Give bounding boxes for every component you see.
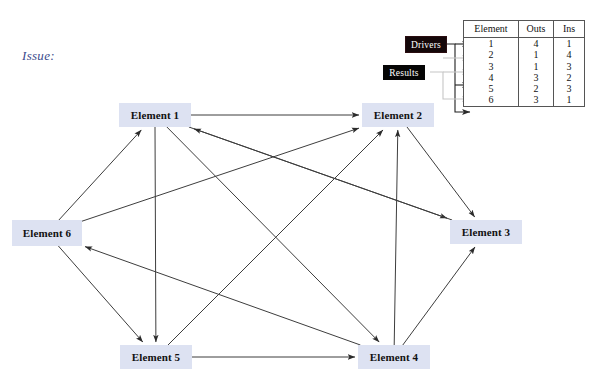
cell-element: 5 [464, 83, 519, 94]
col-header-ins: Ins [554, 21, 585, 38]
table-row: 141 [464, 38, 585, 50]
edge-e6-to-e2 [82, 128, 359, 221]
node-label: Element 6 [23, 227, 71, 239]
edge-e4-to-e2 [394, 130, 398, 345]
cell-element: 1 [464, 38, 519, 50]
cell-element: 3 [464, 61, 519, 72]
table-row: 631 [464, 94, 585, 106]
edge-e3-to-e1 [194, 129, 452, 220]
cell-ins: 1 [554, 38, 585, 50]
edge-e1-to-e4 [167, 127, 379, 342]
drivers-tag: Drivers [405, 36, 447, 53]
cell-element: 6 [464, 94, 519, 106]
node-label: Element 2 [374, 109, 422, 121]
node-e2[interactable]: Element 2 [362, 103, 434, 127]
table-header-row: Element Outs Ins [464, 21, 585, 38]
cell-outs: 4 [519, 38, 554, 50]
edge-e2-to-e3 [407, 127, 475, 217]
cell-ins: 3 [554, 61, 585, 72]
node-e1[interactable]: Element 1 [119, 103, 191, 127]
results-tag: Results [383, 65, 425, 80]
table-row: 214 [464, 49, 585, 60]
node-e6[interactable]: Element 6 [12, 220, 82, 246]
node-e5[interactable]: Element 5 [120, 345, 192, 369]
cell-ins: 3 [554, 83, 585, 94]
cell-element: 2 [464, 49, 519, 60]
cell-outs: 1 [519, 49, 554, 60]
edge-e4-to-e3 [403, 247, 475, 345]
cell-outs: 3 [519, 94, 554, 106]
node-label: Element 3 [462, 226, 510, 238]
node-label: Element 1 [131, 109, 179, 121]
node-e4[interactable]: Element 4 [358, 345, 430, 369]
cell-ins: 2 [554, 72, 585, 83]
col-header-outs: Outs [519, 21, 554, 38]
node-label: Element 4 [370, 351, 418, 363]
cell-outs: 3 [519, 72, 554, 83]
cell-ins: 4 [554, 49, 585, 60]
col-header-element: Element [464, 21, 519, 38]
node-e3[interactable]: Element 3 [450, 220, 522, 244]
cell-outs: 1 [519, 61, 554, 72]
table-row: 523 [464, 83, 585, 94]
edge-e6-to-e1 [59, 130, 141, 220]
cell-ins: 1 [554, 94, 585, 106]
node-label: Element 5 [132, 351, 180, 363]
cell-element: 4 [464, 72, 519, 83]
issue-label: Issue: [22, 48, 55, 64]
edge-e6-to-e5 [58, 246, 142, 342]
edge-e4-to-e6 [85, 247, 360, 345]
diagram-canvas: Issue: Drivers Results Element 1Element … [0, 0, 600, 388]
table-row: 313 [464, 61, 585, 72]
io-summary-table: Element Outs Ins 141214313432523631 [463, 20, 585, 107]
cell-outs: 2 [519, 83, 554, 94]
edge-e1-to-e5 [155, 127, 156, 342]
table-row: 432 [464, 72, 585, 83]
